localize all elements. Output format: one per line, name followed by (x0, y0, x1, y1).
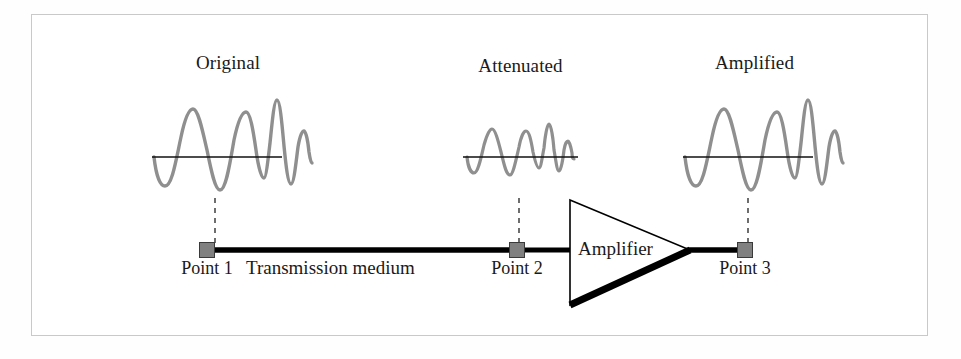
label-amplifier: Amplifier (578, 238, 653, 260)
waveform-amplified (683, 100, 843, 190)
node-marker-point3[interactable] (737, 242, 753, 258)
waveform-amplified-trace (685, 100, 843, 190)
waveform-attenuated-trace (467, 124, 574, 175)
node-marker-point1[interactable] (199, 242, 215, 258)
figure-root: Original Attenuated Amplified Amplifier … (0, 0, 961, 359)
label-transmission-medium: Transmission medium (246, 257, 415, 279)
label-point1: Point 1 (167, 258, 247, 279)
label-point3: Point 3 (705, 258, 785, 279)
label-attenuated: Attenuated (458, 55, 583, 77)
label-amplified: Amplified (692, 52, 817, 74)
label-point2: Point 2 (477, 258, 557, 279)
label-original: Original (168, 52, 288, 74)
node-marker-point2[interactable] (509, 242, 525, 258)
waveform-original-trace (154, 100, 312, 190)
waveform-attenuated (463, 124, 578, 175)
waveform-original (152, 100, 312, 190)
